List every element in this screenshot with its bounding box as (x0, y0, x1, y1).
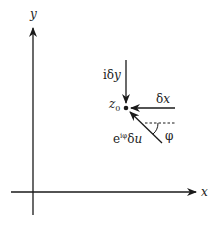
point-z0 (124, 106, 129, 111)
z0-label: z0 (109, 98, 120, 113)
delta-x-label: δx (156, 93, 170, 105)
phi-angle-label: φ (165, 130, 173, 142)
x-axis-label: x (201, 186, 208, 198)
y-axis-label: y (30, 8, 37, 20)
delta-y-label: iδy (103, 69, 121, 81)
angle-arc (153, 123, 158, 134)
delta-u-label: eiφδu (113, 133, 142, 145)
diagram-canvas (0, 0, 216, 225)
